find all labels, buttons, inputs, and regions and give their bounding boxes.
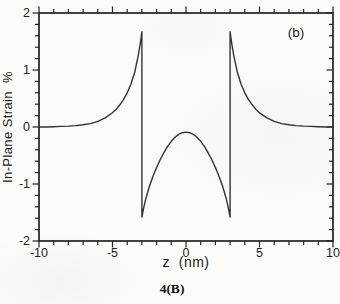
y-axis-title: In-Plane Strain % bbox=[0, 12, 16, 242]
x-tick-label: -10 bbox=[30, 246, 48, 260]
panel-label: (b) bbox=[276, 25, 316, 40]
y-tick-label: 2 bbox=[23, 6, 30, 20]
y-tick-label: -1 bbox=[19, 177, 30, 191]
figure-panel-b: -10-50510210-1-2 In-Plane Strain % z (nm… bbox=[0, 0, 340, 304]
figure-caption: 4(B) bbox=[112, 281, 232, 297]
y-tick-label: 0 bbox=[23, 120, 30, 134]
strain-curve bbox=[39, 32, 333, 217]
y-tick-label: -2 bbox=[19, 234, 30, 248]
x-axis-title: z (nm) bbox=[86, 254, 286, 270]
x-tick-label: 10 bbox=[326, 246, 340, 260]
axes-frame bbox=[39, 13, 333, 241]
y-tick-label: 1 bbox=[23, 63, 30, 77]
